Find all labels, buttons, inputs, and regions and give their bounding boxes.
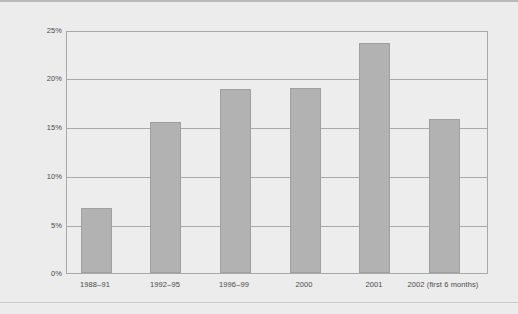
bar-1988-91 — [81, 208, 112, 273]
page-frame: 25% 20% 15% 10% 5% 0% — [0, 0, 518, 314]
bar-1996-99 — [220, 89, 251, 273]
bar-series — [67, 32, 487, 273]
y-axis-tick-label: 15% — [16, 124, 62, 132]
bar-1992-95 — [150, 122, 181, 273]
y-axis-tick-label: 25% — [16, 27, 62, 35]
y-axis-tick-label: 10% — [16, 173, 62, 181]
x-axis-tick-label: 2002 (first 6 months) — [388, 280, 498, 289]
bar-2000 — [290, 88, 321, 273]
y-axis-tick-label: 0% — [16, 270, 62, 278]
plot-area — [66, 31, 488, 274]
bar-2001 — [359, 43, 390, 273]
y-axis-tick-label: 5% — [16, 222, 62, 230]
y-axis-tick-label: 20% — [16, 75, 62, 83]
bar-2002 — [429, 119, 460, 273]
bar-chart-figure: 25% 20% 15% 10% 5% 0% — [0, 2, 518, 314]
